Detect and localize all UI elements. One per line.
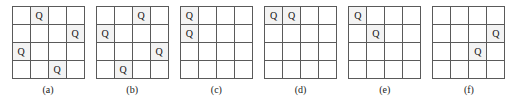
empty-cell[interactable] (216, 43, 234, 61)
queen-cell[interactable]: Q (469, 43, 487, 61)
empty-cell[interactable] (12, 61, 30, 79)
empty-cell[interactable] (96, 7, 114, 25)
empty-cell[interactable] (132, 43, 150, 61)
empty-cell[interactable] (198, 43, 216, 61)
queen-cell[interactable]: Q (180, 7, 198, 25)
empty-cell[interactable] (180, 43, 198, 61)
empty-cell[interactable] (150, 61, 168, 79)
empty-cell[interactable] (12, 25, 30, 43)
empty-cell[interactable] (114, 7, 132, 25)
empty-cell[interactable] (283, 61, 301, 79)
empty-cell[interactable] (319, 43, 337, 61)
empty-cell[interactable] (319, 25, 337, 43)
empty-cell[interactable] (385, 61, 403, 79)
empty-cell[interactable] (301, 43, 319, 61)
queen-cell[interactable]: Q (283, 7, 301, 25)
empty-cell[interactable] (451, 25, 469, 43)
empty-cell[interactable] (385, 25, 403, 43)
queen-cell[interactable]: Q (114, 61, 132, 79)
empty-cell[interactable] (301, 25, 319, 43)
empty-cell[interactable] (487, 61, 505, 79)
empty-cell[interactable] (367, 61, 385, 79)
empty-cell[interactable] (48, 43, 66, 61)
empty-cell[interactable] (234, 61, 252, 79)
empty-cell[interactable] (198, 7, 216, 25)
queen-marker: Q (35, 8, 42, 23)
empty-cell[interactable] (12, 7, 30, 25)
empty-cell[interactable] (234, 25, 252, 43)
empty-cell[interactable] (403, 7, 421, 25)
empty-cell[interactable] (349, 43, 367, 61)
empty-cell[interactable] (349, 25, 367, 43)
empty-cell[interactable] (198, 61, 216, 79)
empty-cell[interactable] (385, 7, 403, 25)
empty-cell[interactable] (96, 43, 114, 61)
empty-cell[interactable] (283, 43, 301, 61)
empty-cell[interactable] (433, 61, 451, 79)
board-row (349, 43, 421, 61)
empty-cell[interactable] (30, 25, 48, 43)
empty-cell[interactable] (216, 7, 234, 25)
empty-cell[interactable] (433, 7, 451, 25)
empty-cell[interactable] (283, 25, 301, 43)
empty-cell[interactable] (403, 43, 421, 61)
queen-cell[interactable]: Q (48, 61, 66, 79)
empty-cell[interactable] (487, 7, 505, 25)
queen-cell[interactable]: Q (349, 7, 367, 25)
empty-cell[interactable] (301, 7, 319, 25)
empty-cell[interactable] (30, 43, 48, 61)
queen-cell[interactable]: Q (487, 25, 505, 43)
empty-cell[interactable] (469, 25, 487, 43)
empty-cell[interactable] (48, 7, 66, 25)
empty-cell[interactable] (66, 61, 84, 79)
empty-cell[interactable] (451, 61, 469, 79)
empty-cell[interactable] (132, 61, 150, 79)
empty-cell[interactable] (433, 43, 451, 61)
empty-cell[interactable] (433, 25, 451, 43)
empty-cell[interactable] (114, 43, 132, 61)
queen-cell[interactable]: Q (150, 43, 168, 61)
empty-cell[interactable] (469, 7, 487, 25)
empty-cell[interactable] (319, 61, 337, 79)
empty-cell[interactable] (451, 43, 469, 61)
empty-cell[interactable] (96, 61, 114, 79)
empty-cell[interactable] (66, 7, 84, 25)
queen-cell[interactable]: Q (265, 7, 283, 25)
queen-cell[interactable]: Q (12, 43, 30, 61)
empty-cell[interactable] (367, 43, 385, 61)
queen-cell[interactable]: Q (180, 25, 198, 43)
empty-cell[interactable] (319, 7, 337, 25)
empty-cell[interactable] (234, 43, 252, 61)
empty-cell[interactable] (349, 61, 367, 79)
empty-cell[interactable] (367, 7, 385, 25)
empty-cell[interactable] (469, 61, 487, 79)
queen-cell[interactable]: Q (30, 7, 48, 25)
empty-cell[interactable] (403, 61, 421, 79)
empty-cell[interactable] (265, 61, 283, 79)
empty-cell[interactable] (216, 25, 234, 43)
empty-cell[interactable] (487, 43, 505, 61)
empty-cell[interactable] (66, 43, 84, 61)
empty-cell[interactable] (403, 25, 421, 43)
empty-cell[interactable] (180, 61, 198, 79)
empty-cell[interactable] (132, 25, 150, 43)
queen-cell[interactable]: Q (132, 7, 150, 25)
queen-cell[interactable]: Q (367, 25, 385, 43)
queen-cell[interactable]: Q (96, 25, 114, 43)
empty-cell[interactable] (48, 25, 66, 43)
empty-cell[interactable] (30, 61, 48, 79)
empty-cell[interactable] (150, 25, 168, 43)
queen-cell[interactable]: Q (66, 25, 84, 43)
empty-cell[interactable] (150, 7, 168, 25)
empty-cell[interactable] (265, 25, 283, 43)
empty-cell[interactable] (198, 25, 216, 43)
empty-cell[interactable] (301, 61, 319, 79)
empty-cell[interactable] (216, 61, 234, 79)
empty-cell[interactable] (114, 25, 132, 43)
queen-marker: Q (102, 26, 109, 41)
board-row: Q (96, 61, 168, 79)
empty-cell[interactable] (385, 43, 403, 61)
empty-cell[interactable] (265, 43, 283, 61)
empty-cell[interactable] (451, 7, 469, 25)
empty-cell[interactable] (234, 7, 252, 25)
